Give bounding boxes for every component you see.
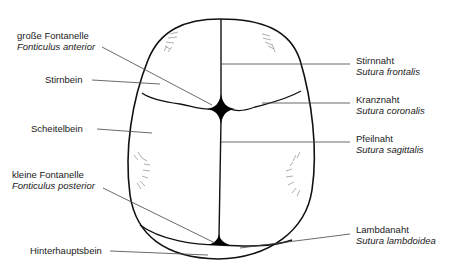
label-sutura-lambdoidea: Lambdanaht Sutura lambdoidea (356, 224, 436, 246)
label-latin: Fonticulus posterior (12, 180, 95, 191)
label-latin: Sutura sagittalis (356, 144, 424, 155)
label-name: Stirnnaht (356, 55, 420, 66)
label-fontanelle-anterior: große Fontanelle Fonticulus anterior (17, 30, 95, 52)
hatch-marks (134, 32, 300, 196)
label-latin: Sutura frontalis (356, 66, 420, 77)
anterior-fontanelle (207, 94, 235, 124)
posterior-fontanelle (208, 234, 230, 245)
label-name: Lambdanaht (356, 224, 436, 235)
label-latin: Sutura lambdoidea (356, 235, 436, 246)
sagittal-suture (219, 120, 221, 237)
label-fontanelle-posterior: kleine Fontanelle Fonticulus posterior (12, 169, 95, 191)
label-name: Pfeilnaht (356, 133, 424, 144)
label-stirnbein: Stirnbein (45, 74, 83, 85)
label-scheitelbein: Scheitelbein (31, 123, 83, 134)
label-name: Stirnbein (45, 74, 83, 85)
label-name: große Fontanelle (17, 30, 95, 41)
label-hinterhauptsbein: Hinterhauptsbein (30, 245, 102, 256)
label-sutura-frontalis: Stirnnaht Sutura frontalis (356, 55, 420, 77)
coronal-suture-left (142, 93, 212, 109)
label-latin: Sutura coronalis (356, 105, 425, 116)
coronal-suture-right (230, 91, 301, 111)
label-sutura-sagittalis: Pfeilnaht Sutura sagittalis (356, 133, 424, 155)
skull-diagram: große Fontanelle Fonticulus anterior Sti… (0, 0, 454, 276)
label-name: kleine Fontanelle (12, 169, 95, 180)
label-name: Kranznaht (356, 94, 425, 105)
label-name: Hinterhauptsbein (30, 245, 102, 256)
label-sutura-coronalis: Kranznaht Sutura coronalis (356, 94, 425, 116)
label-name: Scheitelbein (31, 123, 83, 134)
label-latin: Fonticulus anterior (17, 41, 95, 52)
